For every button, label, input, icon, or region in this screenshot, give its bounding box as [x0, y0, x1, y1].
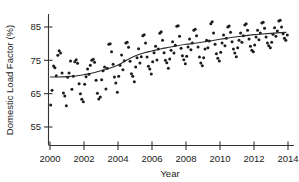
data-point	[269, 46, 272, 49]
data-point	[85, 75, 88, 78]
data-point	[240, 41, 243, 44]
data-point	[76, 62, 79, 65]
data-point	[249, 45, 252, 48]
x-axis-title: Year	[160, 168, 179, 179]
data-point	[65, 104, 68, 107]
data-point	[117, 75, 120, 78]
data-point	[89, 64, 92, 67]
data-point	[279, 19, 282, 22]
data-point	[153, 51, 156, 54]
data-point	[274, 35, 277, 38]
data-point	[215, 52, 218, 55]
data-point	[286, 34, 289, 37]
data-point	[59, 52, 62, 55]
data-point	[56, 54, 59, 57]
data-point	[218, 60, 221, 63]
data-point	[121, 68, 124, 71]
data-point	[120, 54, 123, 57]
data-point	[238, 39, 241, 42]
data-point	[194, 28, 197, 31]
data-point	[219, 51, 222, 54]
data-point	[246, 29, 249, 32]
data-point	[109, 42, 112, 45]
data-point	[95, 79, 98, 82]
data-point	[136, 56, 139, 59]
data-point	[83, 83, 86, 86]
data-point	[51, 89, 54, 92]
y-tick-label-75: 75	[30, 55, 41, 66]
data-point	[197, 46, 200, 49]
data-point	[248, 38, 251, 41]
data-point	[92, 58, 95, 61]
data-point	[204, 48, 207, 51]
data-point	[180, 47, 183, 50]
data-point	[172, 52, 175, 55]
data-point	[236, 46, 239, 49]
data-point	[181, 54, 184, 57]
data-point	[195, 34, 198, 37]
data-point	[280, 26, 283, 29]
data-point	[163, 51, 166, 54]
data-point	[257, 38, 260, 41]
data-point	[178, 35, 181, 38]
data-point	[165, 61, 168, 64]
y-tick-label-55: 55	[30, 121, 41, 132]
data-point	[239, 32, 242, 35]
data-point	[253, 44, 256, 47]
x-tick-label-2012: 2012	[243, 153, 264, 164]
data-point	[127, 46, 130, 49]
y-tick-label-65: 65	[30, 88, 41, 99]
data-point	[229, 31, 232, 34]
data-points-layer	[49, 19, 289, 107]
data-point	[78, 82, 81, 85]
data-point	[232, 48, 235, 51]
x-axis-tick-labels: 20002002200420062008201020122014	[39, 153, 298, 164]
data-point	[262, 21, 265, 24]
data-point	[134, 66, 137, 69]
data-point	[140, 55, 143, 58]
data-point	[131, 75, 134, 78]
data-point	[216, 57, 219, 60]
x-tick-label-2008: 2008	[175, 153, 196, 164]
data-point	[189, 48, 192, 51]
data-point	[154, 45, 157, 48]
scatter-plot-canvas: 55657585 2000200220042006200820102012201…	[0, 0, 299, 182]
data-point	[79, 92, 82, 95]
data-point	[112, 63, 115, 66]
data-point	[184, 62, 187, 65]
data-point	[82, 100, 85, 103]
x-tick-label-2004: 2004	[107, 153, 128, 164]
data-point	[96, 92, 99, 95]
data-point	[138, 62, 141, 65]
data-point	[177, 24, 180, 27]
data-point	[151, 60, 154, 63]
y-axis-tick-labels: 55657585	[30, 21, 41, 132]
data-point	[53, 66, 56, 69]
x-tick-label-2000: 2000	[39, 153, 60, 164]
data-point	[100, 78, 103, 81]
data-point	[63, 95, 66, 98]
data-point	[146, 56, 149, 59]
data-point	[170, 49, 173, 52]
data-point	[129, 60, 132, 63]
data-point	[104, 88, 107, 91]
data-point	[223, 44, 226, 47]
data-point	[231, 40, 234, 43]
data-point	[255, 36, 258, 39]
data-point	[75, 58, 78, 61]
data-point	[270, 41, 273, 44]
trend-line-smoother	[50, 32, 286, 77]
data-point	[212, 32, 215, 35]
data-point	[147, 65, 150, 68]
data-point	[211, 20, 214, 23]
data-point	[235, 55, 238, 58]
data-point	[148, 68, 151, 71]
data-point	[161, 39, 164, 42]
data-point	[61, 72, 64, 75]
data-point	[103, 66, 106, 69]
data-point	[228, 25, 231, 28]
data-point	[284, 39, 287, 42]
data-point	[160, 30, 163, 33]
data-point	[69, 60, 72, 63]
data-point	[199, 62, 202, 65]
